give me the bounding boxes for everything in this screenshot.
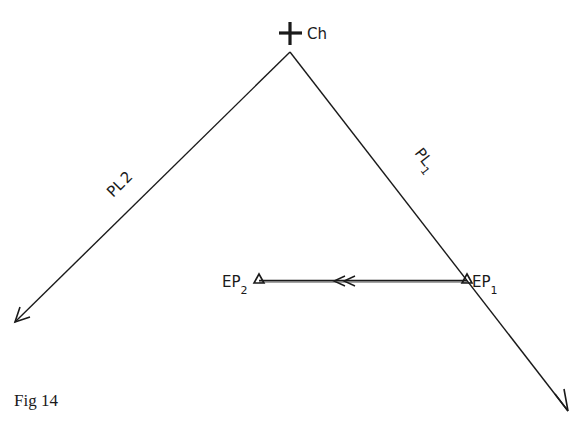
church-label: Ch xyxy=(307,25,327,43)
svg-text:PL1: PL1 xyxy=(407,144,440,177)
diagram-canvas: Ch EP1 EP2 PL2 PL1 xyxy=(0,0,579,442)
ep2-label: EP2 xyxy=(222,273,248,297)
position-line-pl2 xyxy=(15,52,290,322)
figure-caption: Fig 14 xyxy=(14,391,58,411)
ep1-label: EP1 xyxy=(472,273,498,297)
transfer-line xyxy=(259,276,467,286)
position-line-pl1 xyxy=(290,52,568,411)
church-cross-icon xyxy=(279,22,302,45)
svg-text:PL2: PL2 xyxy=(103,168,136,201)
pl1-label: PL1 xyxy=(407,144,440,177)
pl2-label: PL2 xyxy=(103,168,136,201)
